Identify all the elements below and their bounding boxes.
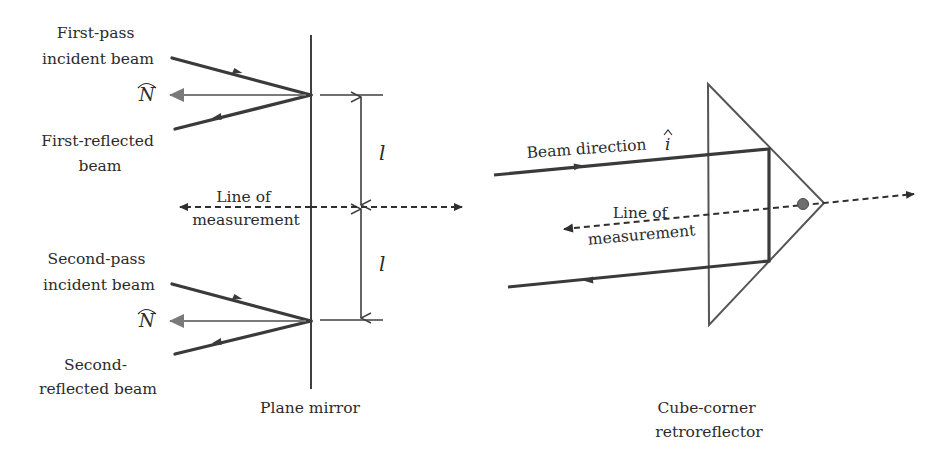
right-measurement-label: Line of <box>613 204 669 222</box>
distance-symbol-bottom: l <box>379 252 385 276</box>
first-reflected-label: First-reflected beam <box>41 132 159 175</box>
second-reflected-label: Second- reflected beam <box>39 356 157 398</box>
apex-reference-point <box>798 199 809 210</box>
plane-mirror-panel: l l First-pass incident beam N First-ref… <box>39 24 462 417</box>
retroreflector-panel: Beam direction i Line of measurement Cub… <box>494 84 914 441</box>
second-reflected-beam <box>175 321 311 354</box>
right-measurement-label-line2: measurement <box>587 221 697 248</box>
beam-direction-label: Beam direction <box>526 136 647 162</box>
first-reflected-beam <box>175 95 311 129</box>
beam-direction-symbol: i <box>665 134 670 154</box>
plane-mirror-caption: Plane mirror <box>260 399 361 417</box>
second-normal-label: N <box>138 310 156 331</box>
left-measurement-label: Line of measurement <box>192 188 300 229</box>
first-normal-label: N <box>138 84 156 105</box>
first-incident-beam <box>172 58 311 95</box>
second-pass-rays <box>170 284 311 354</box>
second-incident-label: Second-pass incident beam <box>43 250 155 294</box>
first-pass-rays <box>170 58 311 129</box>
second-incident-beam <box>172 284 311 321</box>
interferometer-diagram: l l First-pass incident beam N First-ref… <box>0 0 948 453</box>
first-incident-label: First-pass incident beam <box>42 24 154 68</box>
retroreflector-caption: Cube-corner retroreflector <box>655 399 763 441</box>
distance-symbol-top: l <box>379 141 385 165</box>
